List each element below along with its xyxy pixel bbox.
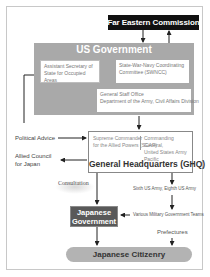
sixth-eighth-army-label: Sixth US Army, Eighth US Army bbox=[133, 186, 196, 191]
ghq-node: Supreme Commander for the Allied Powers … bbox=[88, 131, 193, 173]
swncc-node: State-War-Navy Coordinating Committee (S… bbox=[116, 60, 189, 83]
gso-line1: General Staff Office bbox=[100, 91, 188, 98]
prefectures-label: Prefectures bbox=[157, 228, 188, 236]
japanese-citizenry-node: Japanese Citizenry bbox=[66, 247, 192, 262]
japanese-government-node: Japanese Government bbox=[70, 206, 118, 227]
ghq-title: General Headquarters (GHQ) bbox=[89, 159, 192, 169]
jgov-line1: Japanese bbox=[71, 208, 117, 217]
assistant-secretary-node: Assistant Secretary of State for Occupie… bbox=[40, 60, 100, 83]
political-advice-label: Political Advice bbox=[15, 134, 55, 142]
jgov-line2: Government bbox=[71, 217, 117, 226]
far-eastern-commission-node: Far Eastern Commission bbox=[108, 15, 199, 30]
us-government-title: US Government bbox=[34, 44, 194, 55]
general-staff-office-node: General Staff Office Department of the A… bbox=[97, 89, 191, 112]
allied-council-line1: Allied Council bbox=[15, 152, 51, 160]
ghq-divider bbox=[140, 136, 141, 150]
military-government-teams-label: Various Military Government Teams bbox=[133, 212, 204, 217]
consultation-label: Consultation bbox=[58, 180, 89, 186]
allied-council-label: Allied Council for Japan bbox=[15, 152, 51, 168]
allied-council-line2: for Japan bbox=[15, 160, 51, 168]
gso-line2: Department of the Army, Civil Affairs Di… bbox=[100, 98, 188, 105]
cg-line1: Commanding General, bbox=[144, 135, 192, 149]
